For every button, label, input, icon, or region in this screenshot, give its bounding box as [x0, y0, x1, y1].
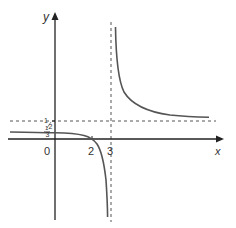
x-tick-label-2: 2: [88, 145, 94, 157]
svg-text:1: 1: [44, 117, 48, 124]
svg-text:3: 3: [46, 131, 50, 138]
curve-right-branch: [116, 27, 210, 117]
x-tick-label-3: 3: [107, 145, 113, 157]
svg-text:2: 2: [49, 123, 53, 130]
origin-label: 0: [44, 145, 50, 157]
x-axis-label: x: [214, 145, 221, 157]
function-graph: y x 0 2 3 1 2 1 3: [0, 0, 236, 228]
y-axis-label: y: [42, 10, 50, 24]
